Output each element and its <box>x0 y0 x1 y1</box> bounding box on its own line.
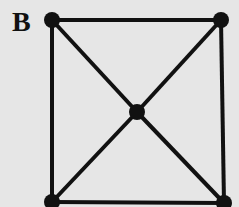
edge-bottom <box>52 202 224 203</box>
edge-diag-center-bl <box>52 112 137 202</box>
node-top-left <box>44 12 60 28</box>
node-top-right <box>213 12 229 28</box>
graph-diagram <box>0 0 239 207</box>
node-center <box>129 104 145 120</box>
edge-right <box>221 20 224 203</box>
edge-diag-tr-center <box>137 20 221 112</box>
edge-diag-center-br <box>137 112 224 203</box>
edge-diag-tl-center <box>52 20 137 112</box>
